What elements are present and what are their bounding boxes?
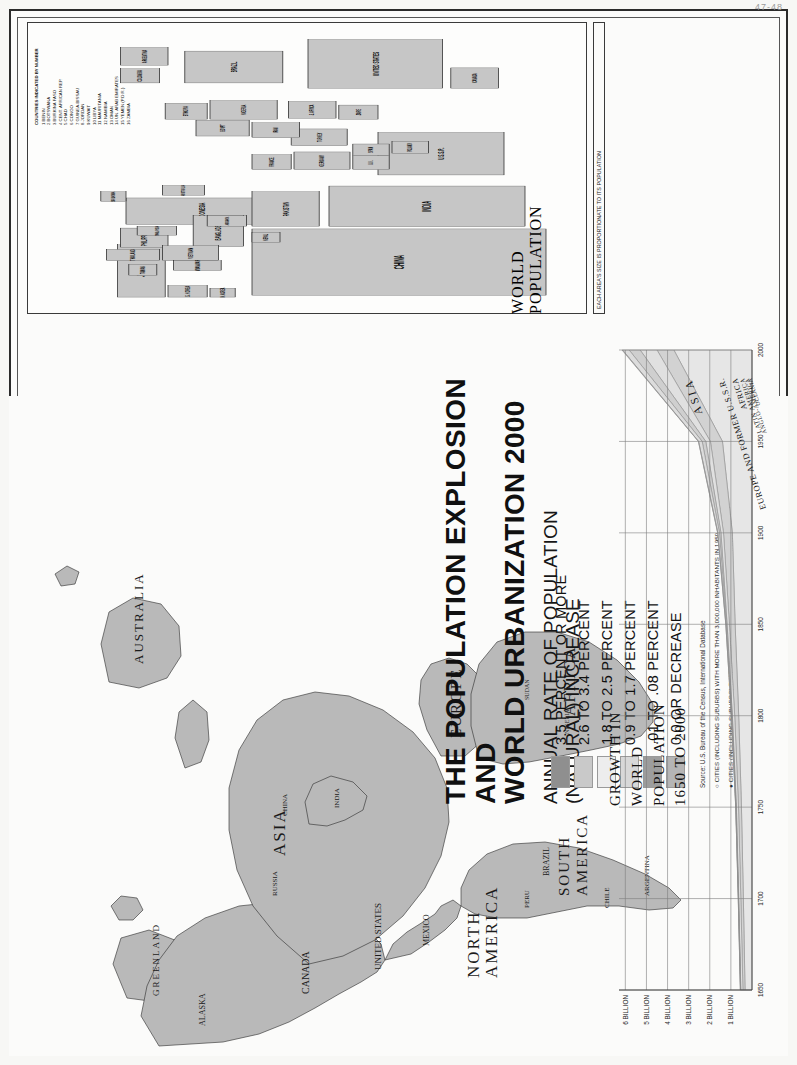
growth-chart-svg: 1 BILLION2 BILLION3 BILLION4 BILLION5 BI… [609,336,774,1036]
cartogram-country-label: SPAIN [368,146,375,152]
map-label-russia: RUSSIA [271,871,279,896]
growth-x-tick-label: 1900 [757,525,764,540]
world-population-cartogram: CHINAINDIAJAPANINDONESIAPAKISTANBANGLADE… [27,22,587,314]
growth-y-tick-label: 1 BILLION [727,995,734,1025]
cartogram-numbered-key: COUNTRIES INDICATED BY NUMBER 1 BENIN2 B… [34,29,131,125]
cartogram-country-label: EGYPT [218,124,226,132]
numbered-key-list: 1 BENIN2 BOTSWANA3 BURKINA FASO4 CENT. A… [41,29,132,125]
map-label-north-america: NORTH [464,910,483,978]
cartogram-country-label: N. KOREA [219,288,226,298]
cartogram-country-label: COLOMBIA [137,70,144,81]
cartogram-country-label: TURKEY [315,133,323,142]
growth-x-tick-label: 1750 [757,800,764,815]
poster-page: 47-48 [0,0,797,1065]
cartogram-country-label: BRAZIL [229,62,238,73]
growth-x-tick-label: 1800 [757,708,764,723]
map-label-mexico: MEXICO [422,914,431,946]
growth-y-tick-label: 2 BILLION [706,995,713,1025]
cartogram-country-label: VIETNAM [186,248,194,259]
cartogram-country-label: UNITED STATES [369,52,381,76]
growth-x-tick-label: 1700 [757,891,764,906]
map-label-greenland: GREENLAND [151,923,161,996]
growth-y-tick-label: 3 BILLION [685,995,692,1025]
cartogram-country-label: FRANCE [267,157,275,166]
poster-content-rotated: NORTH AMERICA SOUTH AMERICA EUROPE AFRIC… [9,9,788,1056]
cartogram-country-label: MYANMAR [193,260,201,271]
cartogram-country-label: U.S.S.R. [435,148,447,160]
cartogram-country-label: GERMANY [318,155,326,167]
legend-label: 2.6 TO 3.4 PERCENT [576,600,592,745]
cartogram-country-label: SRI LANKA [110,191,117,201]
cartogram-country-label: POLAND [407,143,414,152]
growth-chart: 1 BILLION2 BILLION3 BILLION4 BILLION5 BI… [609,336,774,1036]
cartogram-country-label: MALAYSIA [153,226,160,236]
cartogram-country-label: NIGERIA [239,105,247,115]
poster-title-line1: THE POPULATION EXPLOSION AND [441,334,500,804]
numbered-key-item: 16 ZAMBIA [126,29,132,125]
cartogram-country-label: U.K. [367,160,375,165]
legend-row: 2.6 TO 3.4 PERCENT [572,575,595,788]
map-label-china: CHINA [281,794,289,816]
map-label-india: INDIA [333,788,341,808]
growth-y-tick-label: 4 BILLION [664,995,671,1025]
cartogram-key-note: EACH AREA'S SIZE IS PROPORTIONATE TO ITS… [593,22,605,314]
legend-swatch [574,756,593,788]
cartogram-country-label: IRAN [271,127,279,133]
growth-y-tick-label: 6 BILLION [622,995,629,1025]
growth-y-tick-label: 5 BILLION [643,995,650,1025]
numbered-key-heading: COUNTRIES INDICATED BY NUMBER [34,29,40,125]
legend-swatch [551,756,570,788]
cartogram-country-label: INDIA [420,201,433,212]
cartogram-country-label: NEPAL [263,234,270,241]
cartogram-country-label: THAILAND [129,249,137,260]
cartogram-country-label: CANADA [470,73,478,83]
cartogram-country-label: ZAIRE [354,109,362,116]
growth-x-tick-label: 1850 [757,617,764,632]
map-label-australia: AUSTRALIA [131,572,146,664]
cartogram-country-label: CHINA [392,255,407,269]
cartogram-country-label: S. AFRICA [308,105,316,116]
cartogram-country-label: AFGHAN. [223,217,230,225]
legend-row: 3.5 PERCENT OR MORE [549,575,572,788]
poster-title-line2: WORLD URBANIZATION 2000 [500,334,530,804]
cartogram-country-label: ARGENTINA [140,50,148,63]
cartogram-country-label: AUSTRALIA [180,185,187,196]
cartogram-country-label: S. KOREA [183,286,191,297]
map-label-north-america-2: AMERICA [482,886,501,978]
cartogram-country-label: PAKISTAN [281,202,290,216]
growth-x-tick-label: 2000 [757,342,764,357]
legend-label: 3.5 PERCENT OR MORE [553,575,569,745]
cartogram-country-label: ETHIOPIA [182,106,190,116]
growth-x-tick-label: 1650 [757,982,764,997]
map-label-peru: PERU [523,890,531,908]
map-label-south-america: SOUTH [556,836,572,896]
map-label-brazil: BRAZIL [542,847,551,876]
growth-x-tick-label: 1950 [757,434,764,449]
cartogram-country-label: TAIWAN [140,266,147,274]
map-label-canada: CANADA [300,950,311,994]
cartogram-caption-line2: POPULATION [527,144,545,314]
cartogram-caption: WORLD POPULATION [509,144,545,314]
map-label-south-america-2: AMERICA [574,813,590,896]
cartogram-caption-line1: WORLD [509,144,527,314]
map-label-united-states: UNITED STATES [373,903,383,970]
map-label-alaska: ALASKA [198,993,207,1026]
